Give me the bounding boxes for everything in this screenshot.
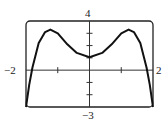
- x-min-label: −2: [4, 65, 16, 76]
- y-max-label: 4: [85, 8, 91, 19]
- graph-canvas: [0, 0, 168, 126]
- y-min-label: −3: [82, 110, 94, 121]
- x-max-label: 2: [156, 65, 162, 76]
